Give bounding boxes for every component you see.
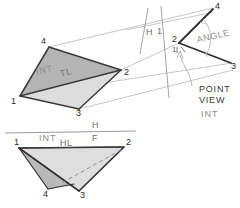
fold-line-hf bbox=[5, 131, 136, 133]
point-view-callout-line-3: INT bbox=[201, 110, 219, 119]
fold-line-hf-label-h: H bbox=[92, 121, 99, 130]
point-view-tick-b bbox=[181, 47, 185, 52]
aux-vertex-label-3: 3 bbox=[76, 109, 81, 118]
point-view-vertex-label-2: 2 bbox=[172, 35, 177, 44]
aux-vertex-label-4: 4 bbox=[41, 37, 46, 46]
aux-vertex-label-2: 2 bbox=[124, 68, 129, 77]
projection-line-2 bbox=[121, 43, 179, 70]
point-view-vertex-label-1: 1 bbox=[172, 46, 177, 54]
fold-line-h1-label-1: 1 bbox=[157, 27, 162, 36]
fold-line-hf-label-f: F bbox=[92, 134, 98, 143]
point-view-edge-2-3 bbox=[179, 43, 231, 63]
point-view-vertex-label-3: 3 bbox=[231, 62, 236, 71]
point-view-vertex-label-4: 4 bbox=[215, 2, 220, 11]
top-view-annotation-hl: HL bbox=[60, 139, 73, 148]
point-view-callout-line-1: POINT bbox=[199, 85, 231, 94]
projection-line-4 bbox=[49, 8, 213, 47]
top-view-vertex-label-1: 1 bbox=[14, 138, 19, 147]
top-view-vertex-label-3: 3 bbox=[80, 191, 85, 200]
fold-line-h1-label-h: H bbox=[146, 28, 153, 37]
top-view-annotation-int: INT bbox=[39, 134, 57, 143]
aux-vertex-label-1: 1 bbox=[11, 97, 16, 106]
top-view-vertex-label-2: 2 bbox=[126, 138, 131, 147]
point-view-callout-line-2: VIEW bbox=[199, 96, 225, 105]
top-view-vertex-label-4: 4 bbox=[43, 190, 48, 199]
point-view-vertex-ticks bbox=[177, 47, 185, 53]
